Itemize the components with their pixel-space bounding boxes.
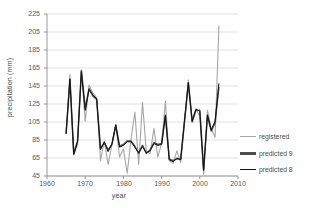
data-series-layer — [66, 26, 219, 175]
x-tick-1970: 1970 — [70, 180, 100, 187]
axis-lines — [47, 14, 238, 176]
series-registered — [66, 26, 219, 175]
plot-area — [0, 0, 311, 208]
gridlines — [47, 14, 238, 176]
y-tick-165: 165 — [14, 64, 40, 71]
y-tick-125: 125 — [14, 100, 40, 107]
legend-item-predicted-8[interactable]: predicted 8 — [240, 166, 293, 173]
legend-swatch-registered — [240, 136, 256, 138]
x-tick-1990: 1990 — [147, 180, 177, 187]
x-tick-1960: 1960 — [32, 180, 62, 187]
x-axis-title: year — [0, 191, 238, 200]
y-tick-85: 85 — [14, 136, 40, 143]
precipitation-line-chart: precipitation (mm) year 225 205 185 165 … — [0, 0, 311, 208]
legend-swatch-predicted-8 — [240, 169, 256, 171]
axis-ticks — [44, 14, 238, 179]
legend-label-registered: registered — [259, 133, 289, 140]
y-tick-65: 65 — [14, 154, 40, 161]
legend-label-predicted-8: predicted 8 — [259, 166, 293, 173]
x-tick-2000: 2000 — [185, 180, 215, 187]
legend-item-registered[interactable]: registered — [240, 133, 289, 140]
y-tick-225: 225 — [14, 10, 40, 17]
legend-label-predicted-9: predicted 9 — [259, 150, 293, 157]
legend-swatch-predicted-9 — [240, 152, 256, 154]
legend-item-predicted-9[interactable]: predicted 9 — [240, 150, 293, 157]
x-tick-2010: 2010 — [223, 180, 253, 187]
y-tick-205: 205 — [14, 28, 40, 35]
y-tick-105: 105 — [14, 118, 40, 125]
y-tick-145: 145 — [14, 82, 40, 89]
y-tick-185: 185 — [14, 46, 40, 53]
x-tick-1980: 1980 — [109, 180, 139, 187]
y-tick-45: 45 — [14, 172, 40, 179]
y-axis-title: precipitation (mm) — [5, 55, 14, 121]
